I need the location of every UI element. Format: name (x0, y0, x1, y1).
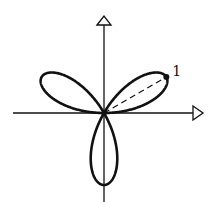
marked-point (163, 74, 169, 80)
x-axis-arrow-icon (193, 106, 203, 120)
radius-label: 1 (172, 63, 181, 79)
y-axis-arrow-icon (97, 16, 111, 25)
origin-point (102, 111, 107, 116)
polar-rose-diagram (0, 0, 219, 202)
